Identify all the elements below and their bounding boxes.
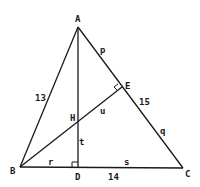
var-t: t <box>79 137 84 147</box>
var-u: u <box>100 106 105 116</box>
side-ac <box>78 27 183 168</box>
right-angle-e-icon <box>114 84 118 91</box>
triangle-diagram: A B C D E H 13 15 14 p q r s t u <box>0 0 200 187</box>
var-p: p <box>100 45 106 55</box>
var-q: q <box>160 126 165 136</box>
side-ab <box>20 27 78 167</box>
label-a: A <box>75 14 81 24</box>
label-c: C <box>185 169 190 179</box>
right-angle-d-icon <box>72 162 78 167</box>
label-b: B <box>10 166 16 176</box>
label-d: D <box>75 172 81 182</box>
label-h: H <box>70 113 75 123</box>
length-bc: 14 <box>108 172 119 182</box>
side-bc <box>20 167 183 168</box>
label-e: E <box>125 81 130 91</box>
var-s: s <box>124 157 129 167</box>
var-r: r <box>48 157 54 167</box>
length-ac: 15 <box>139 97 150 107</box>
length-ab: 13 <box>35 93 46 103</box>
